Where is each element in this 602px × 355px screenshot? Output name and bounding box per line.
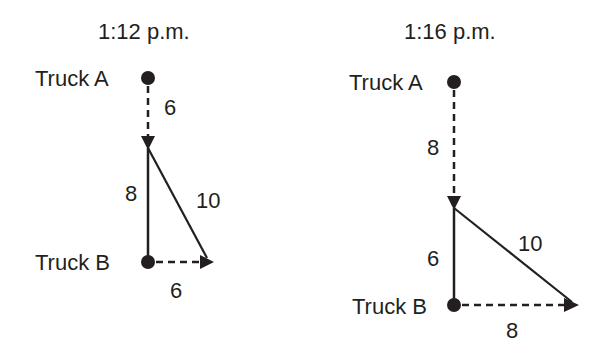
panel-1-direct-separation: 10 (196, 190, 220, 212)
truck-b-arrowhead-icon (564, 298, 579, 312)
panel-2-vertical-separation: 6 (427, 248, 439, 270)
panel-2-truck-b-label: Truck B (352, 296, 427, 318)
panel-2-direct-separation: 10 (518, 233, 542, 255)
panel-1212 (141, 71, 214, 269)
direct-separation-line (454, 208, 572, 302)
panel-1-vertical-separation: 8 (125, 183, 137, 205)
panel-2-truck-a-distance: 8 (427, 137, 439, 159)
truck-a-dot (141, 71, 155, 85)
truck-diagrams-canvas (0, 0, 602, 355)
panel-2-time: 1:16 p.m. (404, 21, 496, 43)
panel-2-truck-a-label: Truck A (349, 72, 423, 94)
panel-1216 (447, 75, 579, 312)
panel-1-truck-b-distance: 6 (170, 280, 182, 302)
panel-1-truck-a-label: Truck A (35, 68, 109, 90)
panel-1-truck-a-distance: 6 (164, 97, 176, 119)
truck-a-arrowhead-icon (447, 196, 461, 210)
truck-b-dot (447, 298, 461, 312)
panel-1-truck-b-label: Truck B (35, 252, 110, 274)
panel-2-truck-b-distance: 8 (506, 320, 518, 342)
truck-b-dot (141, 255, 155, 269)
panel-1-time: 1:12 p.m. (98, 21, 190, 43)
truck-a-arrowhead-icon (141, 136, 155, 150)
truck-a-dot (447, 75, 461, 89)
